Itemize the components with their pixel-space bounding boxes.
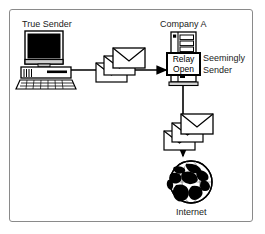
globe-icon xyxy=(167,161,212,203)
diagram-canvas xyxy=(0,0,265,234)
figure-root: True Sender Company A Seemingly Sender I… xyxy=(0,0,265,234)
badge-line-relay: Relay xyxy=(173,54,195,64)
envelope-group-bottom xyxy=(164,114,213,150)
badge-line-open: Open xyxy=(173,64,194,74)
relay-open-badge-text: Relay Open xyxy=(167,53,200,75)
envelope-icon xyxy=(113,48,145,68)
desktop-computer-icon xyxy=(16,31,76,89)
envelope-icon xyxy=(181,114,213,134)
envelope-group-top xyxy=(96,48,145,82)
